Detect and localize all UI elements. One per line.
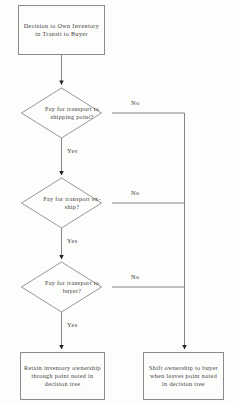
decision2-no-label: No <box>131 189 140 196</box>
decision1-yes-label: Yes <box>67 147 78 154</box>
start-node: Decision to Own Inventory in Transit to … <box>18 5 105 55</box>
decision-shipping-point: Pay for transport to shipping point? <box>32 88 112 138</box>
outcome-retain: Retain inventory ownership through point… <box>20 352 105 400</box>
decision1-no-label: No <box>131 99 140 106</box>
decision3-no-label: No <box>131 273 140 280</box>
decision-ex-ship: Pay for transport ex-ship? <box>32 178 112 228</box>
decision-ex-ship-label: Pay for transport ex-ship? <box>40 195 104 211</box>
start-node-label: Decision to Own Inventory in Transit to … <box>22 22 101 38</box>
decision-shipping-point-label: Pay for transport to shipping point? <box>40 105 104 121</box>
decision-to-buyer: Pay for transport to buyer? <box>32 262 112 312</box>
decision2-yes-label: Yes <box>67 237 78 244</box>
outcome-shift-label: Shift ownership to buyer when leaves poi… <box>147 364 220 389</box>
decision-to-buyer-label: Pay for transport to buyer? <box>40 279 104 295</box>
outcome-shift: Shift ownership to buyer when leaves poi… <box>143 352 224 400</box>
outcome-retain-label: Retain inventory ownership through point… <box>24 364 101 389</box>
decision3-yes-label: Yes <box>67 321 78 328</box>
